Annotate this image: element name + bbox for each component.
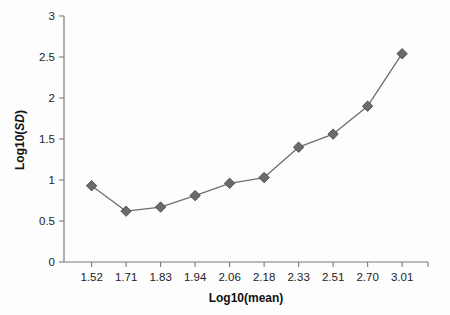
- x-tick-label-1.94: 1.94: [184, 271, 207, 283]
- x-tick-label-1.83: 1.83: [149, 271, 171, 283]
- x-tick-label-1.71: 1.71: [115, 271, 137, 283]
- y-axis-title: Log10(SD): [13, 110, 27, 170]
- x-axis-title: Log10(mean): [209, 291, 284, 305]
- data-point-1.94: [190, 190, 200, 200]
- series-markers: [86, 49, 407, 217]
- y-tick-label-1.5: 1.5: [39, 133, 55, 145]
- data-point-3.01: [397, 49, 407, 59]
- y-tick-label-2: 2: [49, 92, 55, 104]
- x-tick-label-2.33: 2.33: [287, 271, 309, 283]
- x-axis-tick-labels: 1.521.711.831.942.062.182.332.512.703.01: [80, 271, 413, 283]
- x-axis-ticks: [92, 262, 428, 267]
- y-axis-ticks: [59, 16, 64, 262]
- data-point-1.52: [86, 181, 96, 191]
- y-tick-label-0: 0: [49, 256, 55, 268]
- y-tick-label-0.5: 0.5: [39, 215, 55, 227]
- x-tick-label-2.18: 2.18: [253, 271, 275, 283]
- y-axis-title-suffix: ): [13, 110, 27, 114]
- data-point-1.83: [155, 202, 165, 212]
- y-axis-tick-labels: 00.511.522.53: [39, 10, 55, 268]
- line-chart: 00.511.522.53 1.521.711.831.942.062.182.…: [0, 0, 450, 315]
- y-axis-title-italic: SD: [13, 114, 27, 131]
- data-point-2.06: [224, 178, 234, 188]
- x-tick-label-2.06: 2.06: [218, 271, 240, 283]
- x-tick-label-3.01: 3.01: [391, 271, 413, 283]
- y-tick-label-2.5: 2.5: [39, 51, 55, 63]
- data-point-1.71: [121, 206, 131, 216]
- x-tick-label-1.52: 1.52: [80, 271, 102, 283]
- chart-figure: 00.511.522.53 1.521.711.831.942.062.182.…: [0, 0, 450, 315]
- y-axis-title-prefix: Log10(: [13, 131, 27, 170]
- y-tick-label-3: 3: [49, 10, 55, 22]
- x-tick-label-2.51: 2.51: [322, 271, 344, 283]
- y-tick-label-1: 1: [49, 174, 55, 186]
- x-tick-label-2.70: 2.70: [356, 271, 378, 283]
- series-line: [92, 54, 403, 211]
